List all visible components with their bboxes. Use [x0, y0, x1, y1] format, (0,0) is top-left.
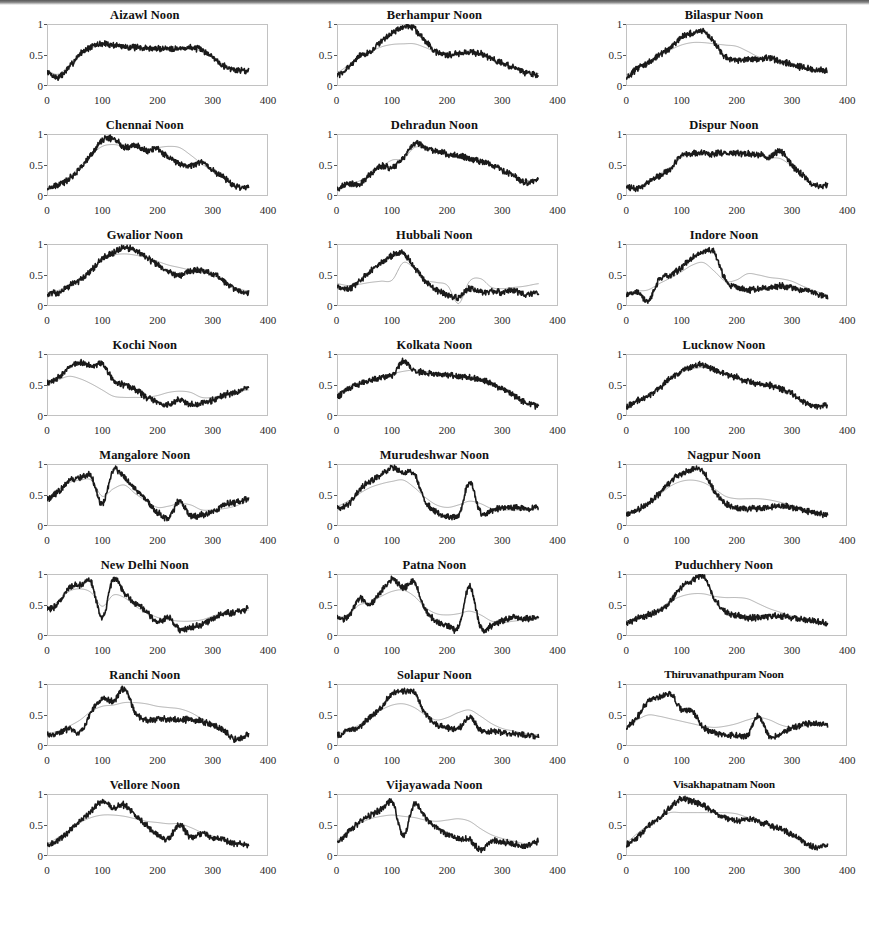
y-tick-label: 0	[38, 850, 44, 862]
x-tick-label: 200	[149, 94, 166, 106]
series-canvas	[337, 354, 558, 416]
x-axis: 0100200300400	[337, 638, 558, 658]
x-tick-label: 0	[334, 754, 340, 766]
x-tick-label: 0	[623, 534, 629, 546]
x-tick-label: 200	[728, 314, 745, 326]
y-tick-label: 1	[617, 128, 623, 140]
x-tick-label: 200	[728, 864, 745, 876]
x-tick-label: 300	[494, 534, 511, 546]
chart-panel: Vijayawada Noon00.510100200300400	[290, 778, 580, 888]
x-axis: 0100200300400	[47, 88, 268, 108]
y-tick-label: 0	[327, 850, 333, 862]
x-tick-label: 300	[205, 864, 222, 876]
y-tick-label: 0.5	[29, 379, 43, 391]
x-tick-label: 100	[384, 754, 401, 766]
x-axis: 0100200300400	[626, 638, 847, 658]
observed-series-line	[47, 41, 249, 80]
chart-panel: New Delhi Noon00.510100200300400	[0, 558, 290, 668]
panel-title: Aizawl Noon	[0, 8, 290, 23]
series-canvas	[47, 134, 268, 196]
y-tick-label: 1	[617, 348, 623, 360]
y-tick-label: 0.5	[29, 159, 43, 171]
plot-area: 00.51	[337, 354, 558, 416]
plot-area: 00.51	[47, 794, 268, 856]
series-canvas	[47, 574, 268, 636]
panel-title: Hubbali Noon	[290, 228, 580, 243]
observed-series-line	[47, 800, 249, 848]
series-canvas	[47, 684, 268, 746]
x-tick-label: 0	[44, 424, 50, 436]
y-tick-label: 0	[327, 630, 333, 642]
y-tick-label: 0.5	[319, 379, 333, 391]
chart-panel: Dehradun Noon00.510100200300400	[290, 118, 580, 228]
x-axis: 0100200300400	[47, 748, 268, 768]
y-tick-label: 0.5	[608, 709, 622, 721]
y-tick-label: 0	[327, 410, 333, 422]
x-tick-label: 0	[44, 644, 50, 656]
x-tick-label: 0	[44, 534, 50, 546]
x-tick-label: 100	[384, 204, 401, 216]
x-tick-label: 200	[439, 424, 456, 436]
x-tick-label: 400	[549, 864, 566, 876]
y-tick-label: 1	[327, 128, 333, 140]
y-tick-label: 0	[327, 300, 333, 312]
x-tick-label: 0	[623, 314, 629, 326]
x-tick-label: 200	[439, 864, 456, 876]
footer-caption	[0, 912, 869, 934]
y-tick-label: 0	[38, 630, 44, 642]
x-tick-label: 200	[728, 534, 745, 546]
x-tick-label: 300	[205, 644, 222, 656]
y-tick-label: 0	[38, 80, 44, 92]
y-tick-label: 0	[617, 850, 623, 862]
x-tick-label: 200	[728, 754, 745, 766]
chart-panel: Thiruvanathpuram Noon00.510100200300400	[579, 668, 869, 778]
panel-title: Patna Noon	[290, 558, 580, 573]
panel-title: Kochi Noon	[0, 338, 290, 353]
y-tick-label: 1	[38, 348, 44, 360]
y-tick-label: 0.5	[608, 489, 622, 501]
plot-area: 00.51	[47, 574, 268, 636]
x-tick-label: 0	[623, 864, 629, 876]
observed-series-line	[337, 24, 539, 78]
y-tick-label: 1	[617, 18, 623, 30]
x-tick-label: 100	[673, 204, 690, 216]
series-canvas	[47, 354, 268, 416]
x-tick-label: 400	[260, 424, 277, 436]
x-axis: 0100200300400	[47, 418, 268, 438]
y-tick-label: 0	[617, 300, 623, 312]
panel-title: Chennai Noon	[0, 118, 290, 133]
x-tick-label: 0	[334, 314, 340, 326]
observed-series-line	[337, 688, 539, 738]
x-tick-label: 100	[384, 314, 401, 326]
x-tick-label: 300	[494, 314, 511, 326]
x-tick-label: 300	[784, 864, 801, 876]
plot-area: 00.51	[47, 684, 268, 746]
series-canvas	[337, 244, 558, 306]
x-tick-label: 100	[384, 864, 401, 876]
y-tick-label: 0	[327, 190, 333, 202]
series-canvas	[47, 244, 268, 306]
x-axis: 0100200300400	[626, 748, 847, 768]
chart-panel: Puduchhery Noon00.510100200300400	[579, 558, 869, 668]
x-axis: 0100200300400	[626, 528, 847, 548]
x-tick-label: 0	[334, 864, 340, 876]
x-tick-label: 100	[673, 314, 690, 326]
plot-area: 00.51	[337, 464, 558, 526]
y-tick-label: 0	[38, 520, 44, 532]
plot-area: 00.51	[626, 134, 847, 196]
y-tick-label: 1	[617, 678, 623, 690]
x-tick-label: 400	[839, 644, 856, 656]
x-tick-label: 100	[94, 644, 111, 656]
plot-area: 00.51	[47, 24, 268, 86]
y-tick-label: 1	[327, 568, 333, 580]
observed-series-line	[337, 250, 539, 300]
y-tick-label: 0	[38, 410, 44, 422]
series-canvas	[47, 464, 268, 526]
panel-title: Mangalore Noon	[0, 448, 290, 463]
x-tick-label: 300	[205, 94, 222, 106]
x-tick-label: 0	[334, 644, 340, 656]
series-canvas	[626, 574, 847, 636]
panel-title: Puduchhery Noon	[579, 558, 869, 573]
x-tick-label: 400	[260, 864, 277, 876]
chart-panel: Kolkata Noon00.510100200300400	[290, 338, 580, 448]
